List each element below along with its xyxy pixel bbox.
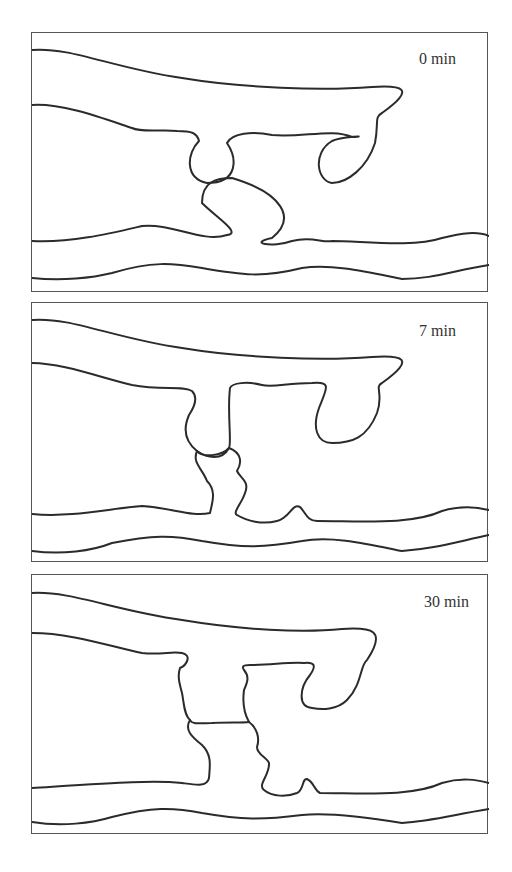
panel-7min: 7 min — [31, 302, 488, 562]
time-label: 7 min — [419, 322, 456, 340]
time-label: 30 min — [424, 593, 469, 611]
vessel-outline-diagram — [32, 33, 489, 293]
panel-30min: 30 min — [31, 574, 488, 834]
time-label: 0 min — [419, 50, 456, 68]
vessel-outline-diagram — [32, 575, 489, 835]
vessel-outline-diagram — [32, 303, 489, 563]
panel-0min: 0 min — [31, 32, 488, 292]
